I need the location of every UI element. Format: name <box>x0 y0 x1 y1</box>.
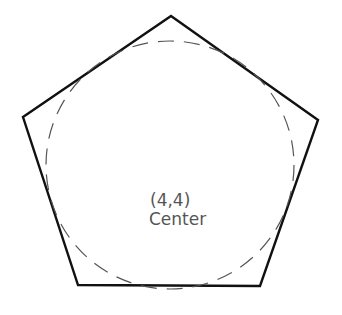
inscribed-circle-dashed <box>46 41 294 289</box>
center-coordinates-label: (4,4) <box>150 190 190 210</box>
center-text-label: Center <box>149 209 206 229</box>
pentagon-diagram: (4,4) Center <box>0 0 342 315</box>
pentagon-outline <box>23 16 318 286</box>
